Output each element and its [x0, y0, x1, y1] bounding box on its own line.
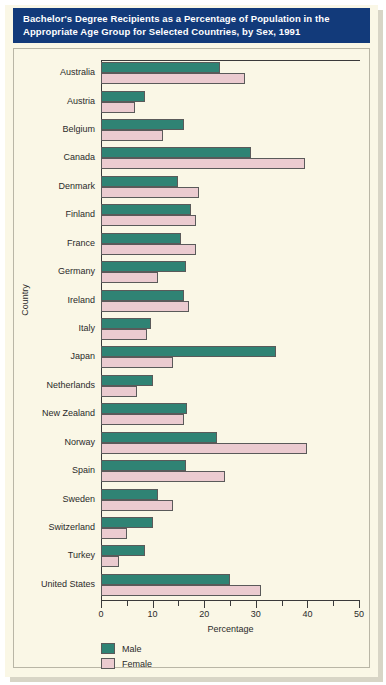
bar-female [101, 471, 225, 482]
legend-label-male: Male [122, 644, 142, 654]
chart-row: Australia [101, 60, 359, 88]
bar-female [101, 414, 184, 425]
chart-row: Netherlands [101, 373, 359, 401]
chart-title-line-2: Appropriate Age Group for Selected Count… [23, 26, 362, 39]
bar-male [101, 432, 217, 443]
x-tick-30 [256, 601, 257, 608]
bar-male [101, 91, 145, 102]
chart-row: Germany [101, 259, 359, 287]
chart-row: Ireland [101, 287, 359, 315]
x-tick-40 [307, 601, 308, 608]
bar-male [101, 290, 184, 301]
chart-title-bar: Bachelor's Degree Recipients as a Percen… [13, 8, 370, 43]
legend-label-female: Female [122, 659, 152, 669]
chart-row: Spain [101, 458, 359, 486]
chart-row: Norway [101, 429, 359, 457]
category-label: Germany [58, 266, 95, 276]
x-tick-10 [153, 601, 154, 608]
bar-male [101, 204, 191, 215]
chart-row: Finland [101, 202, 359, 230]
bar-male [101, 403, 187, 414]
x-tick-label-30: 30 [251, 609, 261, 619]
bar-female [101, 73, 245, 84]
chart-title-line-1: Bachelor's Degree Recipients as a Percen… [23, 13, 362, 26]
x-tick-label-50: 50 [354, 609, 364, 619]
bar-male [101, 261, 186, 272]
bar-male [101, 176, 178, 187]
category-label: New Zealand [42, 408, 95, 418]
legend-item-female: Female [101, 656, 152, 671]
category-label: Australia [60, 67, 95, 77]
x-tick-50 [359, 601, 360, 608]
chart-row: Turkey [101, 543, 359, 571]
legend-swatch-male-icon [101, 643, 115, 654]
chart-row: Canada [101, 145, 359, 173]
bar-male [101, 545, 145, 556]
chart-row: Japan [101, 344, 359, 372]
bar-male [101, 62, 220, 73]
chart-row: Denmark [101, 174, 359, 202]
bar-male [101, 460, 186, 471]
category-label: Sweden [62, 494, 95, 504]
x-tick-label-40: 40 [302, 609, 312, 619]
x-tick-label-0: 0 [98, 609, 103, 619]
bar-female [101, 500, 173, 511]
category-label: Turkey [68, 550, 95, 560]
bar-male [101, 517, 153, 528]
category-label: United States [41, 579, 95, 589]
category-label: France [67, 238, 95, 248]
bar-female [101, 187, 199, 198]
plot-area: AustraliaAustriaBelgiumCanadaDenmarkFinl… [101, 60, 359, 600]
chart-legend: Male Female [101, 641, 152, 671]
bar-female [101, 556, 119, 567]
category-label: Finland [65, 209, 95, 219]
category-label: Japan [70, 351, 95, 361]
bar-male [101, 233, 181, 244]
bar-female [101, 130, 163, 141]
x-tick-label-20: 20 [199, 609, 209, 619]
x-tick-45 [333, 601, 334, 606]
x-tick-15 [178, 601, 179, 606]
category-label: Switzerland [48, 522, 95, 532]
x-tick-0 [101, 601, 102, 608]
category-label: Norway [64, 437, 95, 447]
bar-female [101, 585, 261, 596]
chart-row: Austria [101, 88, 359, 116]
bar-male [101, 574, 230, 585]
x-tick-label-10: 10 [148, 609, 158, 619]
chart-row: France [101, 231, 359, 259]
bar-female [101, 272, 158, 283]
bar-male [101, 119, 184, 130]
bar-female [101, 158, 305, 169]
category-label: Austria [67, 96, 95, 106]
category-label: Denmark [58, 181, 95, 191]
category-label: Italy [78, 323, 95, 333]
x-axis-title: Percentage [101, 624, 360, 634]
chart-row: New Zealand [101, 401, 359, 429]
chart-row: United States [101, 572, 359, 600]
chart-row: Belgium [101, 117, 359, 145]
category-label: Ireland [67, 295, 95, 305]
bar-female [101, 102, 135, 113]
legend-swatch-female-icon [101, 658, 115, 669]
bar-male [101, 346, 276, 357]
bar-female [101, 215, 196, 226]
bar-male [101, 147, 251, 158]
bar-male [101, 318, 151, 329]
chart-row: Italy [101, 316, 359, 344]
y-axis-title: Country [20, 284, 30, 316]
bar-male [101, 375, 153, 386]
category-label: Spain [72, 465, 95, 475]
chart-page: Bachelor's Degree Recipients as a Percen… [0, 0, 386, 685]
legend-item-male: Male [101, 641, 152, 656]
bar-female [101, 329, 147, 340]
bar-male [101, 489, 158, 500]
category-label: Belgium [62, 124, 95, 134]
chart-row: Switzerland [101, 515, 359, 543]
bar-female [101, 244, 196, 255]
x-tick-5 [127, 601, 128, 606]
bar-female [101, 528, 127, 539]
bar-female [101, 443, 307, 454]
x-tick-25 [230, 601, 231, 606]
x-tick-35 [282, 601, 283, 606]
